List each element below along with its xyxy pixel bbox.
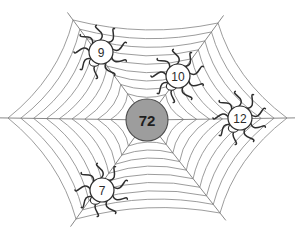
spider-value-label: 7: [99, 184, 106, 198]
spider-leg-icon: [111, 42, 126, 50]
spider-seven: 7: [75, 163, 127, 216]
spider-ten: 10: [151, 49, 203, 102]
spider-nine: 9: [74, 25, 126, 78]
spider-web-graphic: 72 910127: [0, 0, 295, 236]
spider-value-label: 10: [171, 70, 185, 84]
spider-value-label: 12: [233, 112, 247, 126]
spider-group: 910127: [74, 25, 265, 216]
spider-leg-icon: [74, 48, 90, 53]
center-node: 72: [126, 99, 168, 141]
spider-leg-icon: [188, 66, 203, 74]
spider-leg-icon: [111, 56, 126, 62]
spider-leg-icon: [112, 180, 127, 188]
spider-leg-icon: [97, 163, 104, 179]
spider-leg-icon: [219, 101, 232, 111]
spider-leg-icon: [75, 186, 91, 191]
spider-value-label: 9: [98, 46, 105, 60]
spider-web-puzzle: 72 910127: [0, 0, 295, 236]
spider-leg-icon: [244, 128, 254, 142]
center-value-label: 72: [139, 112, 156, 129]
spider-leg-icon: [105, 62, 115, 76]
